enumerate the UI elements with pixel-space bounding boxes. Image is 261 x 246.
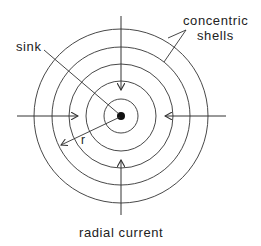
radius-line <box>61 117 120 145</box>
radial-current-label: radial current <box>79 226 163 239</box>
sink-label: sink <box>16 40 42 53</box>
radius-label: r <box>81 134 86 147</box>
concentric-shells-label-line1: concentric <box>183 14 248 27</box>
concentric-shells-label-line2: shells <box>197 29 234 42</box>
